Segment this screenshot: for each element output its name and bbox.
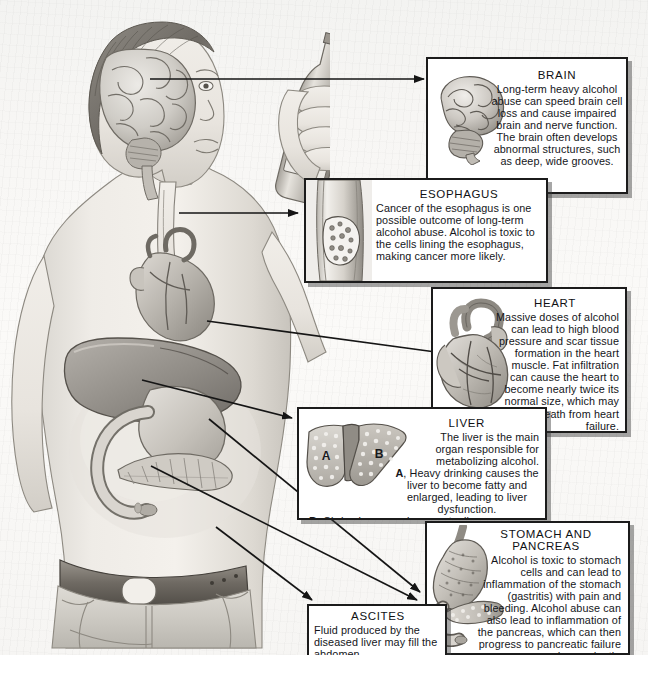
pancreas-hotspot[interactable]	[114, 450, 236, 492]
beer-bottle-hotspot[interactable]	[312, 40, 400, 190]
stomach-panel-title-line2: PANCREAS	[471, 540, 621, 553]
liver-panel-title: LIVER	[309, 417, 539, 430]
diagram-canvas: PREMIUM LAGER	[0, 0, 657, 700]
brain-panel-text: BRAIN Long-term heavy alcohol abuse can …	[490, 69, 624, 167]
liver-panel-body-intro: The liver is the main organ responsible …	[309, 431, 539, 467]
ascites-panel-text: ASCITES Fluid produced by the diseased l…	[314, 610, 442, 657]
page-bottom-margin	[0, 655, 657, 700]
brain-panel-body: Long-term heavy alcohol abuse can speed …	[490, 83, 624, 168]
brain-panel-title: BRAIN	[490, 69, 624, 82]
abdomen-hotspot[interactable]	[80, 494, 240, 560]
liver-panel-body-b: B, Cirrhosis or scarring eventually appe…	[309, 515, 539, 520]
liver-body-a-text: , Heavy drinking causes the liver to bec…	[403, 467, 538, 515]
ascites-panel-title: ASCITES	[314, 610, 442, 623]
liver-panel-text: LIVER The liver is the main organ respon…	[309, 417, 539, 520]
heart-hotspot[interactable]	[130, 232, 218, 342]
esophagus-panel[interactable]: ESOPHAGUS Cancer of the esophagus is one…	[304, 178, 548, 283]
esophagus-panel-body: Cancer of the esophagus is one possible …	[376, 202, 542, 262]
stomach-panel-body: Alcohol is toxic to stomach cells and ca…	[471, 554, 621, 655]
esophagus-panel-title: ESOPHAGUS	[376, 188, 542, 201]
brain-hotspot[interactable]	[100, 46, 196, 154]
brain-panel[interactable]: BRAIN Long-term heavy alcohol abuse can …	[426, 57, 628, 194]
esophagus-panel-text: ESOPHAGUS Cancer of the esophagus is one…	[376, 188, 542, 262]
page-right-margin	[648, 0, 657, 700]
heart-panel-title: HEART	[491, 297, 619, 310]
liver-body-b-text: , Cirrhosis or scarring eventually appea…	[309, 515, 520, 520]
ascites-panel[interactable]: ASCITES Fluid produced by the diseased l…	[307, 604, 447, 657]
liver-marker-b: B	[309, 515, 317, 520]
liver-panel-body-a: A, Heavy drinking causes the liver to be…	[309, 467, 539, 515]
stomach-pancreas-panel[interactable]: STOMACH AND PANCREAS Alcohol is toxic to…	[425, 521, 630, 655]
liver-panel[interactable]: A B LIVER The liver is the main organ r	[297, 407, 547, 520]
esophagus-illustration	[306, 180, 372, 281]
stomach-panel-text: STOMACH AND PANCREAS Alcohol is toxic to…	[471, 528, 621, 655]
ascites-panel-body: Fluid produced by the diseased liver may…	[314, 624, 442, 657]
